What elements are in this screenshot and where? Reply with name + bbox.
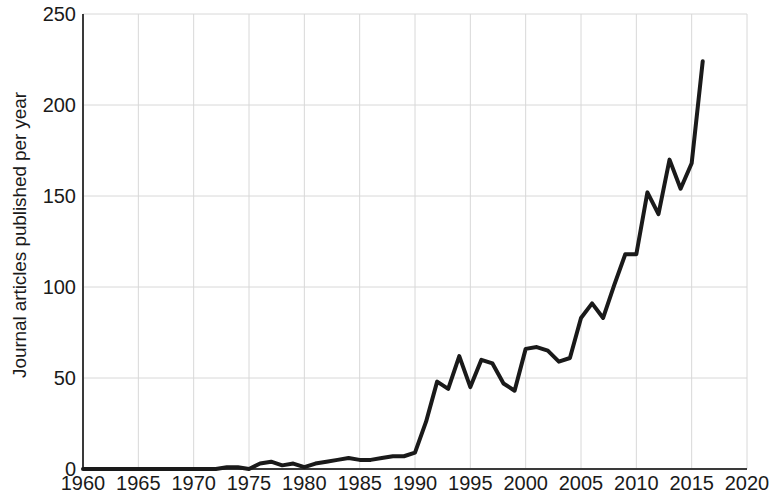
x-axis-tick-1990: 1990 [393, 472, 438, 495]
x-axis-tick-2005: 2005 [559, 472, 604, 495]
data-series-line [83, 61, 703, 469]
x-axis-tick-1970: 1970 [171, 472, 216, 495]
x-axis-tick-1985: 1985 [337, 472, 382, 495]
x-axis-tick-1975: 1975 [227, 472, 272, 495]
x-axis-tick-1995: 1995 [448, 472, 493, 495]
x-axis-tick-labels: 1960196519701975198019851990199520002005… [0, 472, 769, 504]
x-axis-tick-1960: 1960 [61, 472, 106, 495]
x-axis-tick-2010: 2010 [614, 472, 659, 495]
x-axis-tick-2015: 2015 [669, 472, 714, 495]
grid-lines [83, 14, 747, 469]
journal-articles-line-chart: Journal articles published per year 0501… [0, 0, 769, 504]
x-axis-tick-1965: 1965 [116, 472, 161, 495]
x-axis-tick-2020: 2020 [725, 472, 769, 495]
x-axis-tick-1980: 1980 [282, 472, 327, 495]
x-axis-tick-2000: 2000 [503, 472, 548, 495]
plot-area [0, 0, 769, 504]
